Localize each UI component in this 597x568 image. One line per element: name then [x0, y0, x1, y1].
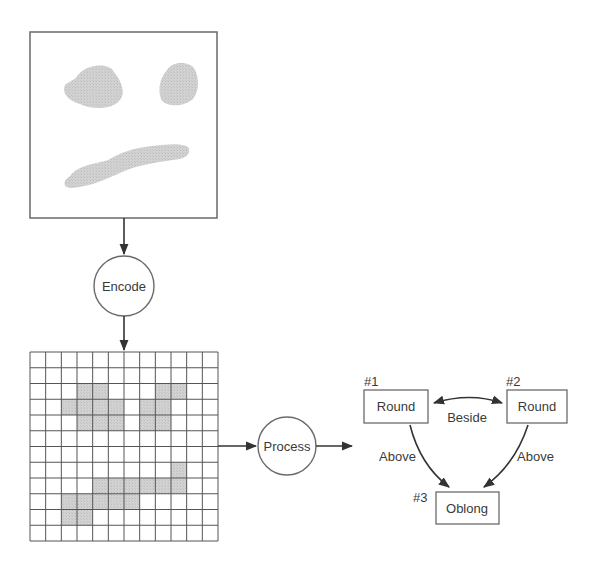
- grid-cell-shaded: [93, 384, 109, 400]
- edge-above-1-3-label: Above: [379, 449, 416, 464]
- grid-cell-shaded: [155, 478, 171, 494]
- grid-cell-shaded: [140, 415, 156, 431]
- edge-above-2-3-label: Above: [517, 449, 554, 464]
- grid-cell-shaded: [171, 478, 187, 494]
- node-3-label: Oblong: [446, 501, 488, 516]
- grid-cell-shaded: [77, 510, 93, 526]
- grid-cell-shaded: [124, 494, 140, 510]
- grid-cell-shaded: [140, 399, 156, 415]
- input-image-panel: [30, 32, 217, 218]
- grid-cell-shaded: [77, 384, 93, 400]
- image-frame: [30, 32, 217, 218]
- grid-cell-shaded: [77, 399, 93, 415]
- encode-label: Encode: [102, 279, 146, 294]
- node-2-label: Round: [518, 399, 556, 414]
- encode-node: Encode: [94, 256, 154, 316]
- grid-cell-shaded: [93, 478, 109, 494]
- grid-cell-shaded: [140, 478, 156, 494]
- encode-process-diagram: Encode Process #1 Round #2 Round #3 Oblo…: [0, 0, 597, 568]
- grid-cell-shaded: [155, 384, 171, 400]
- node-1-label: Round: [377, 399, 415, 414]
- grid-cell-shaded: [61, 399, 77, 415]
- grid-cell-shaded: [108, 415, 124, 431]
- node-3-id: #3: [413, 490, 427, 505]
- grid-cell-shaded: [108, 494, 124, 510]
- grid-cell-shaded: [93, 399, 109, 415]
- process-node: Process: [258, 417, 316, 475]
- node-1-id: #1: [364, 374, 378, 389]
- grid-cell-shaded: [171, 462, 187, 478]
- grid-cell-shaded: [93, 494, 109, 510]
- edge-beside-label: Beside: [447, 410, 487, 425]
- relation-graph: #1 Round #2 Round #3 Oblong Beside Above…: [364, 374, 567, 524]
- grid-cell-shaded: [155, 415, 171, 431]
- grid-cell-shaded: [124, 478, 140, 494]
- grid-cell-shaded: [61, 494, 77, 510]
- grid-cell-shaded: [108, 478, 124, 494]
- grid-cell-shaded: [171, 384, 187, 400]
- grid-cell-shaded: [155, 399, 171, 415]
- grid-cell-shaded: [61, 510, 77, 526]
- node-2-id: #2: [506, 374, 520, 389]
- edge-beside: [434, 398, 502, 404]
- grid-cell-shaded: [93, 415, 109, 431]
- encoded-grid: [30, 352, 218, 541]
- grid-cell-shaded: [108, 399, 124, 415]
- grid-cell-shaded: [77, 415, 93, 431]
- process-label: Process: [264, 439, 311, 454]
- grid-cell-shaded: [77, 494, 93, 510]
- grid-lines: [30, 352, 218, 541]
